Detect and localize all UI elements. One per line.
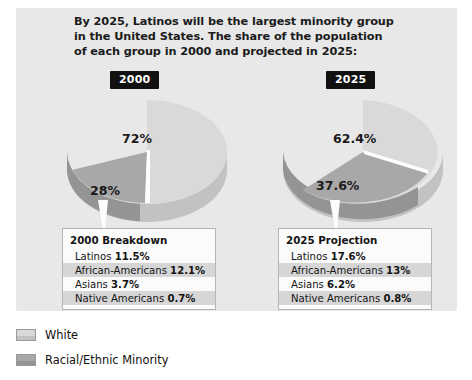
breakdown-value: 3.7% bbox=[111, 279, 139, 290]
breakdown-value: 12.1% bbox=[170, 265, 205, 276]
pie-2025-major-label: 62.4% bbox=[333, 131, 376, 146]
breakdown-title-2025: 2025 Projection bbox=[279, 233, 431, 249]
breakdown-box-2025: 2025 Projection Latinos 17.6% African-Am… bbox=[278, 228, 432, 310]
page-title: By 2025, Latinos will be the largest min… bbox=[74, 14, 394, 60]
breakdown-row: Native Americans 0.8% bbox=[279, 291, 431, 305]
breakdown-group: Asians bbox=[291, 279, 327, 290]
breakdown-row: Asians 6.2% bbox=[279, 277, 431, 291]
breakdown-row: African-Americans 13% bbox=[279, 263, 431, 277]
legend-item-white: White bbox=[16, 322, 168, 347]
pie-2000-major-label: 72% bbox=[122, 131, 152, 146]
breakdown-title-2000: 2000 Breakdown bbox=[63, 233, 215, 249]
breakdown-value: 0.7% bbox=[167, 293, 195, 304]
pie-2000-minor-label: 28% bbox=[90, 183, 120, 198]
breakdown-group: African-Americans bbox=[75, 265, 170, 276]
legend-label: White bbox=[45, 328, 78, 342]
callout-pointer-2000 bbox=[74, 200, 154, 230]
breakdown-row: Latinos 11.5% bbox=[63, 249, 215, 263]
legend-item-minority: Racial/Ethnic Minority bbox=[16, 347, 168, 372]
breakdown-group: African-Americans bbox=[291, 265, 386, 276]
breakdown-group: Latinos bbox=[291, 251, 331, 262]
white-swatch-icon bbox=[16, 329, 36, 341]
breakdown-row: African-Americans 12.1% bbox=[63, 263, 215, 277]
infographic-root: By 2025, Latinos will be the largest min… bbox=[0, 0, 472, 380]
breakdown-group: Asians bbox=[75, 279, 111, 290]
breakdown-value: 11.5% bbox=[115, 251, 150, 262]
breakdown-value: 6.2% bbox=[327, 279, 355, 290]
minority-swatch-icon bbox=[16, 354, 36, 366]
chart-legend: White Racial/Ethnic Minority bbox=[16, 322, 168, 372]
pie-2025-minor-label: 37.6% bbox=[316, 178, 359, 193]
breakdown-value: 17.6% bbox=[331, 251, 366, 262]
breakdown-value: 0.8% bbox=[383, 293, 411, 304]
legend-label: Racial/Ethnic Minority bbox=[45, 353, 168, 367]
breakdown-group: Latinos bbox=[75, 251, 115, 262]
breakdown-value: 13% bbox=[386, 265, 410, 276]
breakdown-group: Native Americans bbox=[75, 293, 167, 304]
breakdown-row: Native Americans 0.7% bbox=[63, 291, 215, 305]
breakdown-box-2000: 2000 Breakdown Latinos 11.5% African-Ame… bbox=[62, 228, 216, 310]
breakdown-row: Asians 3.7% bbox=[63, 277, 215, 291]
breakdown-row: Latinos 17.6% bbox=[279, 249, 431, 263]
year-badge-2025: 2025 bbox=[326, 71, 375, 89]
breakdown-group: Native Americans bbox=[291, 293, 383, 304]
year-badge-2000: 2000 bbox=[110, 71, 159, 89]
callout-pointer-2025 bbox=[300, 200, 380, 230]
